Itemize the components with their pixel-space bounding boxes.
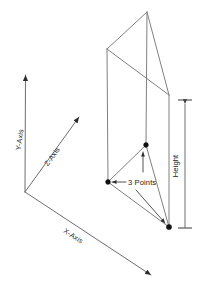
y-axis-line xyxy=(25,75,26,192)
x-axis-line xyxy=(25,192,151,275)
height-label: Height xyxy=(171,154,180,177)
z-axis-label: Z-Axis xyxy=(42,145,62,168)
three-points-label: 3 Points xyxy=(128,178,156,187)
point-marker-left xyxy=(106,180,111,185)
geometry-diagram-svg: Y-Axis Z-Axis X-Axis Height xyxy=(0,0,207,292)
prism-bottom-edge-middle-left xyxy=(108,145,146,182)
height-dimension-group: Height xyxy=(171,100,192,228)
y-axis-label: Y-Axis xyxy=(14,128,26,150)
point-marker-right xyxy=(166,224,171,229)
leader-to-right-point xyxy=(136,190,165,223)
prism-bottom-edge-left-right xyxy=(108,182,169,227)
prism-top-edge-left-right xyxy=(107,49,169,95)
diagram-canvas: Y-Axis Z-Axis X-Axis Height xyxy=(0,0,207,292)
prism-group xyxy=(107,12,169,227)
prism-vertical-edge-left xyxy=(107,49,108,182)
axis-group: Y-Axis Z-Axis X-Axis xyxy=(14,75,151,275)
prism-vertical-edge-middle xyxy=(146,12,147,145)
prism-top-edge-apex-left xyxy=(107,12,147,49)
three-points-callout-group: 3 Points xyxy=(112,152,165,223)
point-marker-top xyxy=(144,143,149,148)
prism-top-edge-apex-right xyxy=(147,12,169,95)
